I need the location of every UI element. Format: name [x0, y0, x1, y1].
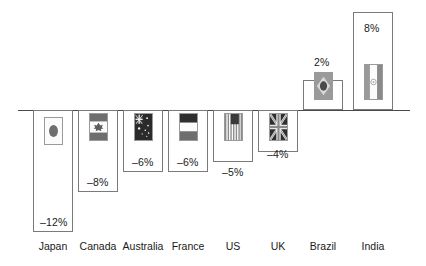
value-label-brazil: 2% — [314, 56, 330, 68]
category-label-japan: Japan — [33, 240, 73, 252]
value-label-india: 8% — [364, 22, 380, 34]
category-label-us: US — [213, 240, 253, 252]
value-label-japan: –12% — [40, 216, 68, 228]
flag-india — [364, 64, 383, 100]
value-label-us: –5% — [222, 166, 244, 178]
value-label-france: –6% — [177, 156, 199, 168]
flag-france — [179, 113, 198, 141]
flag-japan — [44, 117, 63, 145]
value-label-australia: –6% — [132, 156, 154, 168]
flag-australia — [134, 113, 153, 141]
category-label-canada: Canada — [78, 240, 118, 252]
bar-chart: –12% Japan –8% Canada — [0, 0, 426, 266]
flag-brazil — [314, 72, 333, 100]
flag-uk — [269, 113, 288, 141]
category-label-india: India — [353, 240, 393, 252]
category-label-uk: UK — [258, 240, 298, 252]
category-label-australia: Australia — [119, 240, 167, 252]
flag-canada — [89, 113, 108, 141]
value-label-uk: –4% — [267, 148, 289, 160]
value-label-canada: –8% — [87, 176, 109, 188]
flag-us — [224, 113, 243, 141]
category-label-france: France — [168, 240, 208, 252]
category-label-brazil: Brazil — [303, 240, 343, 252]
